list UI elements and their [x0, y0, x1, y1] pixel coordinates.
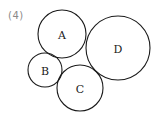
- tangent-circles-diagram: A B C D: [0, 0, 161, 120]
- circle-b: B: [28, 53, 62, 87]
- circle-a: A: [38, 10, 86, 58]
- circle-d: D: [86, 16, 150, 80]
- circle-d-label: D: [114, 43, 123, 56]
- circle-b-label: B: [41, 65, 49, 78]
- circle-a-label: A: [57, 29, 67, 42]
- circle-c-label: C: [76, 83, 84, 96]
